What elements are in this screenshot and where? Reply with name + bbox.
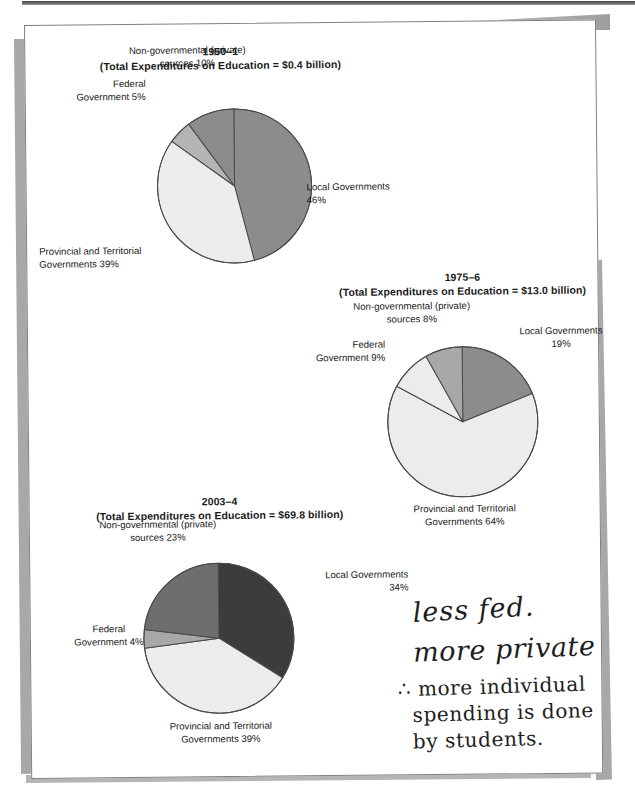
pie-graphic [142,561,295,714]
handwritten-note-line-5: by students. [413,726,545,754]
slice-label-local-governments: Local Governments 19% [506,324,616,350]
handwritten-note-line-4: spending is done [412,698,594,727]
slice-label-provincial-territorial: Provincial and Territorial Governments 3… [39,244,189,270]
slice-label-federal-government: Federal Government 9% [280,339,385,365]
slice-label-federal-government: Federal Government 4% [59,623,159,649]
pie-graphic [386,345,539,498]
slice-label-local-governments: Local Governments 46% [307,180,390,206]
handwritten-note-line-2: more private [412,630,595,668]
slice-label-provincial-territorial: Provincial and Territorial Governments 6… [390,502,540,528]
pie-area: Local Governments 34% Provincial and Ter… [50,521,392,754]
pie-chart-2003-4: 2003–4 (Total Expenditures on Education … [50,493,393,776]
slice-label-non-governmental: Non-governmental (private) sources 23% [68,518,248,545]
slice-label-provincial-territorial: Provincial and Territorial Governments 3… [146,719,296,745]
pie-area: Local Governments 46% Provincial and Ter… [55,71,387,304]
scan-top-bar [22,1,635,5]
slice-label-local-governments: Local Governments 34% [288,568,408,594]
slice-label-non-governmental: Non-governmental (private) sources 10% [97,44,277,71]
pie-graphic [156,107,313,264]
page-content: 1950–1 (Total Expenditures on Education … [25,21,602,778]
handwritten-note-line-1: less fed. [412,590,535,628]
slice-label-federal-government: Federal Government 5% [46,78,146,104]
scanned-page-sheet: 1950–1 (Total Expenditures on Education … [24,20,603,779]
slice-label-non-governmental: Non-governmental (private) sources 8% [322,299,502,326]
handwritten-note-line-3: ∴ more individual [397,672,586,702]
